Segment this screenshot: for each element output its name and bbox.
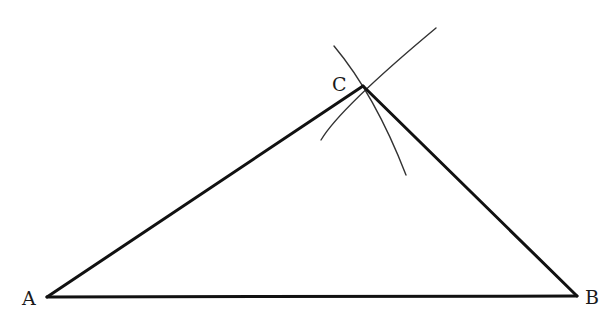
- vertex-label-a: A: [21, 287, 36, 309]
- side-ab: [47, 296, 577, 297]
- side-ac: [47, 86, 363, 297]
- triangle-construction-diagram: A B C: [0, 0, 616, 326]
- triangle-sides: [47, 86, 577, 297]
- vertex-label-b: B: [585, 286, 599, 308]
- vertex-labels: A B C: [21, 73, 599, 309]
- side-bc: [363, 86, 577, 296]
- vertex-label-c: C: [332, 73, 347, 95]
